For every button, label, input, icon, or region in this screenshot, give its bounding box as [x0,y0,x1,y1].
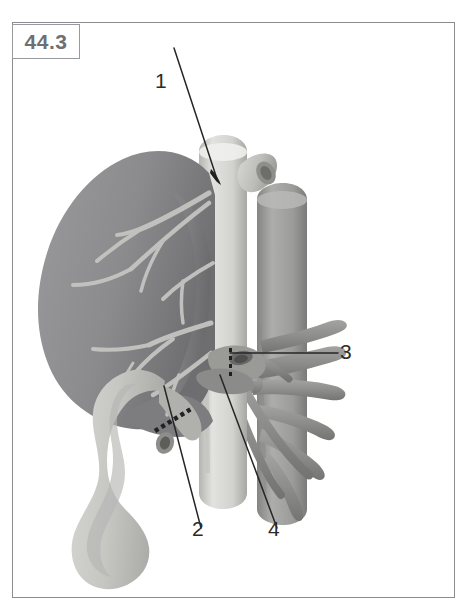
figure-number-label: 44.3 [25,31,68,52]
figure-number-box: 44.3 [12,24,80,59]
anatomical-illustration [13,23,454,597]
figure-root: 44.3 [0,0,473,615]
callout-label-1: 1 [155,70,167,91]
illustration-canvas [13,23,454,597]
callout-label-3: 3 [340,341,352,362]
callout-label-2: 2 [192,518,204,539]
callout-label-4: 4 [268,518,280,539]
